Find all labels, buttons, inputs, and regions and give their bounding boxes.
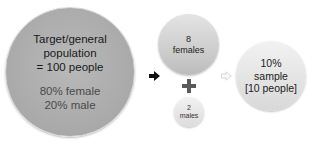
female-percentage: 80% female bbox=[40, 84, 101, 98]
males-label: males bbox=[180, 112, 199, 120]
females-label: females bbox=[173, 45, 205, 56]
sample-label: sample bbox=[254, 70, 288, 83]
arrow-right-outline-icon bbox=[221, 71, 232, 81]
arrow-right-solid-icon bbox=[149, 71, 160, 81]
plus-icon bbox=[182, 79, 196, 93]
sample-size: [10 people] bbox=[245, 82, 297, 95]
males-circle: 2 males bbox=[174, 97, 204, 127]
population-title: Target/general population = 100 people bbox=[33, 32, 107, 74]
females-count: 8 bbox=[186, 34, 191, 45]
males-count: 2 bbox=[187, 104, 191, 112]
population-title-line-3: = 100 people bbox=[33, 60, 107, 74]
target-population-circle: Target/general population = 100 people 8… bbox=[5, 7, 135, 137]
females-circle: 8 females bbox=[158, 14, 219, 75]
male-percentage: 20% male bbox=[40, 98, 101, 112]
population-title-line-1: Target/general bbox=[33, 32, 107, 46]
sample-percentage: 10% bbox=[260, 57, 281, 70]
population-title-line-2: population bbox=[33, 46, 107, 60]
sample-circle: 10% sample [10 people] bbox=[236, 41, 306, 111]
population-split: 80% female 20% male bbox=[40, 84, 101, 112]
